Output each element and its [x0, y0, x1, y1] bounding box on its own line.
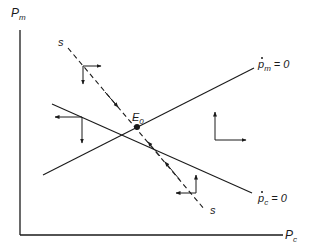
pm-dot-zero-line	[43, 68, 254, 175]
pm-label-eq: = 0	[274, 58, 290, 70]
x-axis-label-main: P	[285, 228, 293, 242]
pm-label-var: p	[258, 58, 264, 70]
saddle-label-bottom: s	[210, 204, 216, 216]
pm-label-sub: m	[264, 64, 271, 73]
pc-label-var: p	[258, 192, 264, 204]
direction-arrows-left-icon	[55, 117, 82, 143]
x-axis-label: Pc	[285, 228, 297, 244]
saddle-label-top: s	[58, 36, 64, 48]
x-axis-label-sub: c	[293, 235, 297, 244]
saddle-arrow-lower2-icon	[148, 142, 160, 156]
direction-arrows-bottom-icon	[176, 175, 196, 193]
y-axis-label-sub: m	[19, 13, 26, 22]
pc-dot-zero-label: pc = 0	[258, 192, 287, 207]
saddle-arrow-upper-icon	[105, 92, 118, 107]
equilibrium-label-sub: 0	[139, 117, 143, 126]
phase-diagram	[0, 0, 309, 252]
pc-label-sub: c	[264, 198, 268, 207]
pc-label-eq: = 0	[271, 192, 287, 204]
y-axis-label-main: P	[11, 6, 19, 20]
equilibrium-label: E0	[132, 111, 144, 126]
y-axis-label: Pm	[11, 6, 26, 22]
direction-arrows-right-icon	[215, 112, 246, 140]
pm-dot-zero-label: pm = 0	[258, 58, 289, 73]
saddle-arrow-lower-icon	[165, 162, 180, 180]
